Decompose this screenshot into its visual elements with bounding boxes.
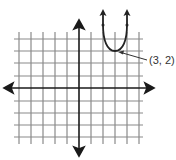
annotation-leader-line (121, 53, 147, 61)
x-axis-left-arrow-icon (4, 83, 13, 93)
parabola-arrows (100, 9, 131, 27)
curve-point-dot (126, 24, 129, 27)
x-axis-right-arrow-icon (145, 83, 154, 93)
y-axis-up-arrow-icon (74, 20, 84, 29)
vertex-label: (3, 2) (149, 54, 175, 66)
curve-point-dot (102, 24, 105, 27)
coordinate-plane: (3, 2) (0, 0, 176, 160)
y-axis-down-arrow-icon (74, 147, 84, 156)
